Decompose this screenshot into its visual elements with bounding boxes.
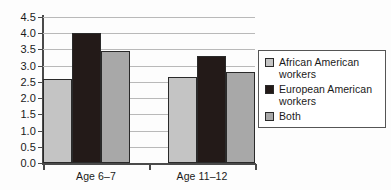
bar bbox=[72, 33, 101, 163]
bar bbox=[168, 77, 197, 163]
y-axis-tick-label: 2.0 bbox=[20, 93, 36, 104]
x-axis-end-tick bbox=[43, 164, 45, 170]
category-separator-tick bbox=[149, 164, 151, 170]
legend-swatch-african-american-workers bbox=[265, 58, 274, 67]
legend-swatch-european-american-workers bbox=[265, 85, 274, 94]
y-axis-tick-label: 0.5 bbox=[20, 141, 36, 152]
legend-item: African American workers bbox=[265, 56, 380, 80]
x-axis-category-label: Age 11–12 bbox=[152, 170, 252, 182]
y-axis-tick-label: 4.0 bbox=[20, 28, 36, 39]
bar-chart: 0.00.51.01.52.02.53.03.54.04.5 Age 6–7Ag… bbox=[0, 0, 391, 190]
y-axis-tick-label: 3.0 bbox=[20, 60, 36, 71]
legend-label: European American workers bbox=[279, 83, 380, 107]
y-axis-tick-label: 2.5 bbox=[20, 76, 36, 87]
x-axis-category-label: Age 6–7 bbox=[46, 170, 146, 182]
bar bbox=[43, 79, 72, 163]
legend-item: Both bbox=[265, 110, 380, 122]
bar bbox=[197, 56, 226, 163]
y-axis-tick-label: 1.5 bbox=[20, 109, 36, 120]
bars-layer bbox=[43, 17, 255, 163]
y-axis-tick-label: 4.5 bbox=[20, 12, 36, 23]
legend-swatch-both bbox=[265, 112, 274, 121]
legend-label: Both bbox=[279, 110, 301, 122]
y-axis-tick-label: 3.5 bbox=[20, 44, 36, 55]
legend-label: African American workers bbox=[279, 56, 380, 80]
y-axis-tick-label: 0.0 bbox=[20, 158, 36, 169]
legend-item: European American workers bbox=[265, 83, 380, 107]
plot-area: 0.00.51.01.52.02.53.03.54.04.5 bbox=[43, 17, 255, 163]
y-axis-tick-label: 1.0 bbox=[20, 125, 36, 136]
legend: African American workers European Americ… bbox=[258, 50, 386, 128]
x-axis-end-tick bbox=[255, 164, 257, 170]
bar bbox=[101, 51, 130, 163]
bar bbox=[226, 72, 255, 163]
